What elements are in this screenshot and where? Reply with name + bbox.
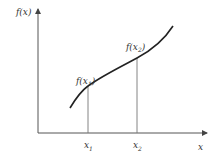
x2-tick-label: x2 <box>133 140 142 152</box>
y-axis-label: f(x) <box>15 7 32 17</box>
function-curve <box>70 26 173 108</box>
x-axis-label: x <box>198 142 203 152</box>
x1-tick-label: x1 <box>84 140 93 152</box>
f-x2-label: f(x2) <box>125 42 146 53</box>
f-x1-label: f(x1) <box>75 76 96 87</box>
function-diagram: f(x) x f(x1) f(x2) x1 x2 <box>0 0 219 160</box>
